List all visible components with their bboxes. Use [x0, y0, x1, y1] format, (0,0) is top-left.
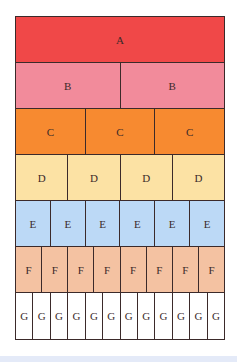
row-e: EEEEEE: [16, 201, 224, 247]
bottom-strip: [0, 356, 237, 362]
row-g: GGGGGGGGGGGG: [16, 293, 224, 339]
cell-g: G: [103, 293, 120, 339]
cell-g: G: [173, 293, 190, 339]
cell-e: E: [155, 201, 190, 246]
cell-e: E: [51, 201, 86, 246]
cell-e: E: [86, 201, 121, 246]
row-d: DDDD: [16, 155, 224, 201]
cell-e: E: [190, 201, 224, 246]
cell-g: G: [86, 293, 103, 339]
cell-a: A: [16, 17, 224, 62]
cell-e: E: [16, 201, 51, 246]
cell-c: C: [155, 109, 224, 154]
cell-d: D: [16, 155, 68, 200]
cell-d: D: [173, 155, 224, 200]
cell-c: C: [86, 109, 156, 154]
cell-f: F: [68, 247, 94, 292]
row-c: CCC: [16, 109, 224, 155]
cell-g: G: [208, 293, 224, 339]
cell-f: F: [173, 247, 199, 292]
cell-g: G: [51, 293, 68, 339]
cell-g: G: [33, 293, 50, 339]
cell-d: D: [121, 155, 173, 200]
row-f: FFFFFFFF: [16, 247, 224, 293]
cell-g: G: [121, 293, 138, 339]
cell-g: G: [16, 293, 33, 339]
cell-f: F: [42, 247, 68, 292]
cell-f: F: [199, 247, 224, 292]
cell-g: G: [138, 293, 155, 339]
row-a: A: [16, 17, 224, 63]
cell-f: F: [94, 247, 120, 292]
cell-g: G: [68, 293, 85, 339]
cell-e: E: [120, 201, 155, 246]
fraction-wall: ABBCCCDDDDEEEEEEFFFFFFFFGGGGGGGGGGGG: [15, 16, 225, 340]
cell-b: B: [16, 63, 121, 108]
cell-d: D: [68, 155, 120, 200]
cell-f: F: [16, 247, 42, 292]
cell-f: F: [147, 247, 173, 292]
cell-c: C: [16, 109, 86, 154]
cell-g: G: [190, 293, 207, 339]
row-b: BB: [16, 63, 224, 109]
cell-f: F: [121, 247, 147, 292]
cell-g: G: [155, 293, 172, 339]
cell-b: B: [121, 63, 225, 108]
